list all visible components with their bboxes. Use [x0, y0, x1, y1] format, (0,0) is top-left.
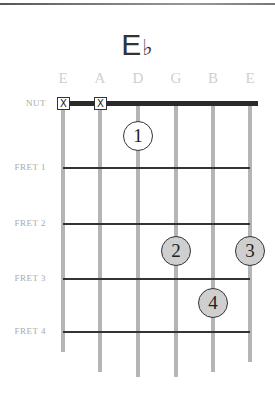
- fret-line-1: [63, 167, 250, 169]
- x-mute-icon: X: [94, 97, 107, 110]
- fret-label-3: FRET 3: [0, 273, 46, 283]
- string-label-b: B: [203, 70, 223, 87]
- finger-marker-4: 4: [198, 288, 228, 318]
- nut-label: NUT: [0, 98, 46, 108]
- chord-title: E♭: [0, 28, 275, 62]
- chord-root: E: [121, 28, 142, 61]
- string-label-g: G: [166, 70, 186, 87]
- string-label-e: E: [53, 70, 73, 87]
- string-line-1: [61, 104, 65, 352]
- string-label-e: E: [240, 70, 260, 87]
- fret-label-1: FRET 1: [0, 162, 46, 172]
- top-divider: [0, 3, 275, 5]
- string-label-a: A: [90, 70, 110, 87]
- fret-line-3: [63, 278, 250, 280]
- fret-line-2: [63, 223, 250, 225]
- finger-marker-3: 3: [235, 236, 265, 266]
- finger-marker-1: 1: [123, 121, 153, 151]
- finger-marker-2: 2: [161, 236, 191, 266]
- chord-accidental: ♭: [142, 35, 153, 60]
- fret-label-4: FRET 4: [0, 326, 46, 336]
- string-line-6: [248, 104, 252, 362]
- string-label-d: D: [128, 70, 148, 87]
- fret-line-4: [63, 331, 250, 333]
- x-mute-icon: X: [57, 97, 70, 110]
- fret-label-2: FRET 2: [0, 218, 46, 228]
- nut-bar: [58, 101, 258, 106]
